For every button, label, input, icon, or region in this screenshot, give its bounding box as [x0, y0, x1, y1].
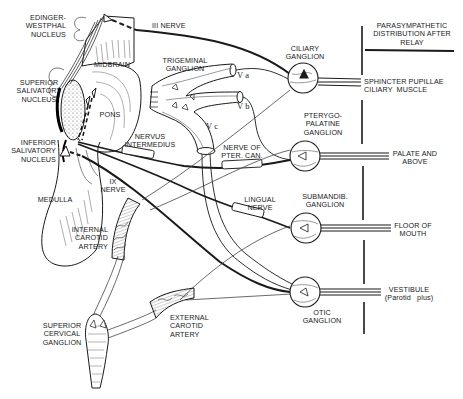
label-superior-salivatory-nucleus: SUPERIOR SALIVATORY NUCLEUS — [14, 79, 64, 104]
label-target-vestibule: VESTIBULE (Parotid plus) — [381, 286, 437, 303]
label-submandibular-ganglion: SUBMANDIB. GANGLION — [300, 193, 350, 210]
label-superior-cervical-ganglion: SUPERIOR CERVICAL GANGLION — [38, 322, 86, 347]
label-va: V a — [237, 71, 257, 79]
label-edinger-westphal-nucleus: EDINGER- WESTPHAL NUCLEUS — [14, 14, 66, 39]
ganglion-otic — [290, 277, 320, 307]
label-otic-ganglion: OTIC GANGLION — [302, 309, 342, 326]
label-vc: V c — [206, 122, 226, 130]
label-pons: PONS — [98, 111, 122, 119]
label-pterygopalatine-ganglion: PTERYGO- PALATINE GANGLION — [300, 112, 346, 137]
label-ciliary-ganglion: CILIARY GANGLION — [283, 45, 327, 62]
label-trigeminal-ganglion: TRIGEMINAL GANGLION — [160, 57, 210, 74]
label-medulla: MEDULLA — [37, 196, 73, 204]
label-nervus-intermedius: NERVUS INTERMEDIUS — [122, 133, 178, 150]
label-external-carotid-artery: EXTERNAL CAROTID ARTERY — [170, 314, 218, 339]
label-midbrain: MIDBRAIN — [92, 61, 132, 69]
label-nerve-of-pter-can: NERVE OF PTER. CAN. — [218, 144, 266, 161]
ganglion-pterygopalatine — [290, 141, 320, 171]
label-ix-nerve: IX NERVE — [100, 178, 126, 195]
label-target-floor-of-mouth: FLOOR OF MOUTH — [392, 222, 434, 239]
label-distribution-title: PARASYMPATHETIC DISTRIBUTION AFTER RELAY — [370, 22, 454, 47]
label-vb: V b — [237, 102, 257, 110]
label-target-palate: PALATE AND ABOVE — [388, 150, 442, 167]
ganglion-ciliary — [288, 63, 318, 93]
internal-carotid-artery — [112, 198, 140, 260]
ix-nerve-path — [70, 152, 290, 292]
label-lingual-nerve: LINGUAL NERVE — [240, 196, 280, 213]
label-inferior-salivatory-nucleus: INFERIOR SALIVATORY NUCLEUS — [6, 139, 56, 164]
label-internal-carotid-artery: INTERNAL CAROTID ARTERY — [66, 226, 108, 251]
superior-cervical-ganglion — [85, 314, 108, 388]
ganglion-submandibular — [291, 213, 321, 243]
label-target-sphincter-pupillae: SPHINCTER PUPILLAE CILIARY MUSCLE — [364, 78, 460, 95]
label-iii-nerve: III NERVE — [152, 22, 212, 30]
